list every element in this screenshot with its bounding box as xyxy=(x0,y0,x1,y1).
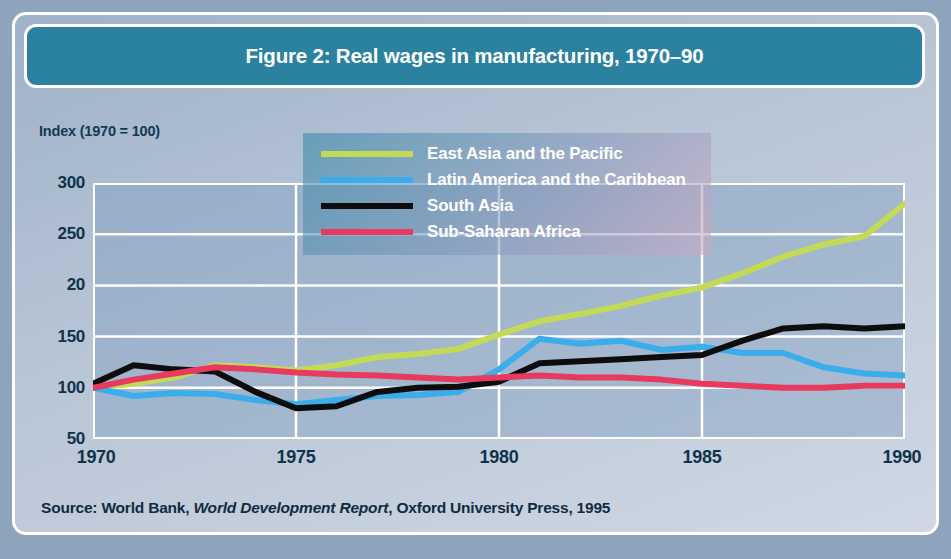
legend-color-swatch xyxy=(321,203,413,209)
source-prefix: Source: World Bank, xyxy=(41,499,193,516)
source-publication-title: World Development Report xyxy=(193,499,388,516)
source-suffix: , Oxford University Press, 1995 xyxy=(388,499,610,516)
x-axis-tick-labels: 19701975198019851990 xyxy=(93,447,905,477)
x-tick-label: 1975 xyxy=(277,447,316,468)
legend-item: Latin America and the Caribbean xyxy=(321,167,711,193)
legend-color-swatch xyxy=(321,177,413,183)
legend-label: South Asia xyxy=(427,196,513,216)
legend-label: Latin America and the Caribbean xyxy=(427,170,686,190)
figure-title: Figure 2: Real wages in manufacturing, 1… xyxy=(246,44,704,68)
legend-color-swatch xyxy=(321,229,413,235)
source-note: Source: World Bank, World Development Re… xyxy=(41,499,610,517)
legend-color-swatch xyxy=(321,151,413,157)
figure-card: Figure 2: Real wages in manufacturing, 1… xyxy=(12,12,939,535)
figure-title-bar: Figure 2: Real wages in manufacturing, 1… xyxy=(24,24,925,88)
y-tick-label: 300 xyxy=(58,173,85,193)
y-tick-label: 100 xyxy=(58,378,85,398)
x-tick-label: 1980 xyxy=(480,447,519,468)
x-tick-label: 1970 xyxy=(77,447,116,468)
y-tick-label: 150 xyxy=(58,327,85,347)
y-axis-tick-labels: 3002502015010050 xyxy=(35,183,85,439)
y-tick-label: 250 xyxy=(58,224,85,244)
y-tick-label: 20 xyxy=(67,275,85,295)
x-tick-label: 1985 xyxy=(683,447,722,468)
legend-item: East Asia and the Pacific xyxy=(321,141,711,167)
y-tick-label: 50 xyxy=(67,429,85,449)
legend-label: East Asia and the Pacific xyxy=(427,144,623,164)
x-tick-label: 1990 xyxy=(882,447,921,468)
y-axis-caption: Index (1970 = 100) xyxy=(39,123,160,139)
legend-item: South Asia xyxy=(321,193,711,219)
legend-label: Sub-Saharan Africa xyxy=(427,222,581,242)
legend-item: Sub-Saharan Africa xyxy=(321,219,711,245)
chart-legend: East Asia and the PacificLatin America a… xyxy=(303,133,711,255)
